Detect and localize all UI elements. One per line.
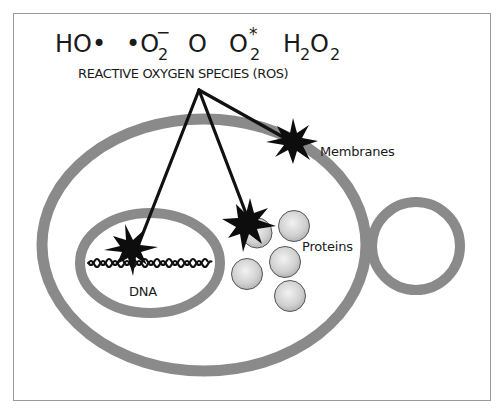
- svg-text:−: −: [156, 22, 170, 42]
- formula-singlet-oxygen: O 2 *: [229, 24, 260, 64]
- damage-burst-icon: [104, 224, 158, 276]
- formula-hydroxyl-radical: HO•: [55, 30, 106, 58]
- formula-hydrogen-peroxide: H 2 O 2: [283, 30, 340, 64]
- svg-text:*: *: [249, 24, 258, 44]
- protein-sphere: [279, 211, 310, 242]
- protein-sphere: [275, 281, 306, 312]
- dna-helix-icon: [88, 259, 212, 267]
- svg-text:2: 2: [158, 45, 168, 64]
- protein-sphere: [232, 259, 263, 290]
- svg-text:O: O: [229, 30, 248, 58]
- ros-attack-arrows: [138, 90, 292, 246]
- ros-formulas: HO• •O 2 − O O 2 * H 2 O 2: [55, 22, 340, 64]
- svg-text:O: O: [310, 30, 329, 58]
- ros-title: REACTIVE OXYGEN SPECIES (ROS): [78, 66, 288, 81]
- arrow-to-proteins: [199, 90, 250, 224]
- vesicle-membrane: [372, 202, 460, 290]
- protein-sphere: [270, 247, 301, 278]
- label-membranes: Membranes: [320, 144, 395, 159]
- label-proteins: Proteins: [302, 239, 353, 254]
- svg-text:2: 2: [300, 45, 310, 64]
- damage-burst-icon: [266, 118, 318, 164]
- formula-atomic-oxygen: O: [188, 30, 207, 58]
- svg-text:•O: •O: [126, 30, 159, 58]
- svg-text:2: 2: [330, 45, 340, 64]
- svg-text:2: 2: [250, 45, 260, 64]
- label-dna: DNA: [129, 284, 157, 299]
- formula-superoxide: •O 2 −: [126, 22, 170, 64]
- ros-diagram: HO• •O 2 − O O 2 * H 2 O 2 REACTIVE OXYG…: [0, 0, 504, 410]
- svg-text:H: H: [283, 30, 301, 58]
